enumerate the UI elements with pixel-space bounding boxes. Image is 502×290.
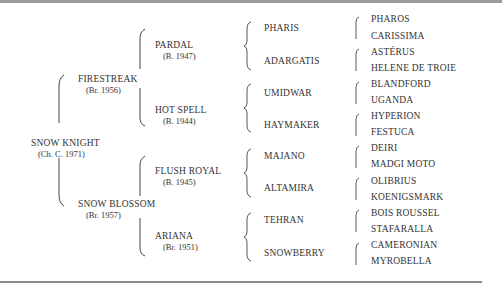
brace [243,148,253,198]
grandparent-name: HOT SPELL [155,105,207,116]
brace-upper [57,74,65,124]
gg-grandparent-name: FESTUCA [371,127,415,138]
brace [138,217,146,257]
gg-grandparent-name: HELENE DE TROIE [371,63,456,74]
brace [354,145,360,169]
grandparent-name: FLUSH ROYAL [155,166,221,177]
great-grandparent-name: UMIDWAR [264,88,312,99]
subject-name: SNOW KNIGHT [31,138,100,149]
grandparent-detail: (Br. 1951) [163,242,198,252]
grandparent-name: ARIANA [155,231,193,242]
grandparent-detail: (B. 1944) [163,116,196,126]
brace [138,87,146,127]
brace [354,113,360,137]
grandparent-name: PARDAL [155,40,193,51]
great-grandparent-name: HAYMAKER [264,120,320,131]
top-rule [0,0,502,3]
gg-grandparent-name: KOENIGSMARK [371,192,443,203]
gg-grandparent-name: MYROBELLA [371,256,432,267]
gg-grandparent-name: DEIRI [371,143,397,154]
bottom-rule [0,281,482,283]
great-grandparent-name: SNOWBERRY [264,248,325,259]
brace [243,83,253,133]
gg-grandparent-name: UGANDA [371,95,413,106]
gg-grandparent-name: ASTÉRUS [371,47,415,58]
gg-grandparent-name: PHAROS [371,14,410,25]
gg-grandparent-name: STAFARALLA [371,224,433,235]
parent-detail: (Br. 1957) [86,210,121,220]
grandparent-detail: (B. 1945) [163,177,196,187]
gg-grandparent-name: HYPERION [371,111,421,122]
gg-grandparent-name: BLANDFORD [371,79,431,90]
gg-grandparent-name: CARISSIMA [371,31,425,42]
brace [354,16,360,40]
great-grandparent-name: ALTAMIRA [264,183,314,194]
grandparent-detail: (B. 1947) [163,51,196,61]
brace [138,155,146,197]
great-grandparent-name: PHARIS [264,23,299,34]
gg-grandparent-name: MADGI MOTO [371,159,435,170]
brace [354,177,360,201]
parent-detail: (Br. 1956) [86,85,121,95]
gg-grandparent-name: BOIS ROUSSEL [371,208,440,219]
great-grandparent-name: ADARGATIS [264,56,320,67]
parent-name: FIRESTREAK [78,74,138,85]
gg-grandparent-name: CAMERONIAN [371,240,437,251]
brace [354,81,360,105]
brace-lower [57,157,65,207]
brace [354,242,360,266]
great-grandparent-name: MAJANO [264,151,305,162]
gg-grandparent-name: OLIBRIUS [371,176,416,187]
brace [354,48,360,72]
brace [243,21,253,71]
brace [354,209,360,233]
parent-name: SNOW BLOSSOM [78,199,155,210]
brace [243,212,253,262]
brace [138,28,146,70]
great-grandparent-name: TEHRAN [264,215,304,226]
